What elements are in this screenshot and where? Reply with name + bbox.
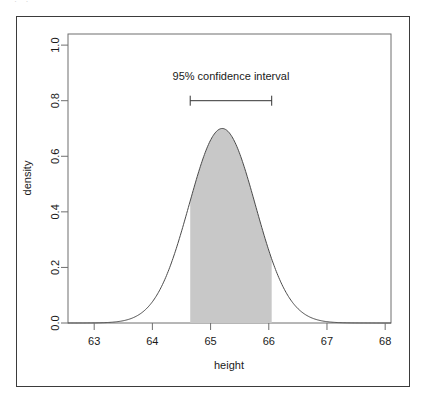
x-tick-label: 63 (88, 335, 100, 347)
x-tick-label: 64 (146, 335, 158, 347)
y-tick-label: 0.6 (49, 149, 61, 164)
screenshot-root: · · 636465666768 0.00.20.40.60.81.0 heig… (0, 0, 426, 404)
figure-outer-frame: 636465666768 0.00.20.40.60.81.0 height d… (16, 16, 410, 387)
x-tick-label: 67 (321, 335, 333, 347)
ci-label: 95% confidence interval (173, 70, 290, 82)
y-tick-label: 0.4 (49, 204, 61, 219)
y-tick-label: 0.8 (49, 93, 61, 108)
confidence-interval-annotation: 95% confidence interval (173, 70, 290, 106)
y-tick-label: 0.0 (49, 315, 61, 330)
x-tick-label: 66 (263, 335, 275, 347)
x-tick-label: 68 (379, 335, 391, 347)
x-axis-title: height (214, 359, 244, 371)
y-tick-label: 1.0 (49, 37, 61, 52)
x-tick-label: 65 (204, 335, 216, 347)
x-axis: 636465666768 (88, 323, 391, 347)
clipped-text-fragment: · · (14, 0, 74, 6)
shaded-ci-region (190, 128, 271, 323)
y-axis: 0.00.20.40.60.81.0 (49, 37, 68, 330)
y-axis-title: density (21, 160, 33, 195)
y-tick-label: 0.2 (49, 260, 61, 275)
density-plot: 636465666768 0.00.20.40.60.81.0 height d… (17, 17, 408, 385)
